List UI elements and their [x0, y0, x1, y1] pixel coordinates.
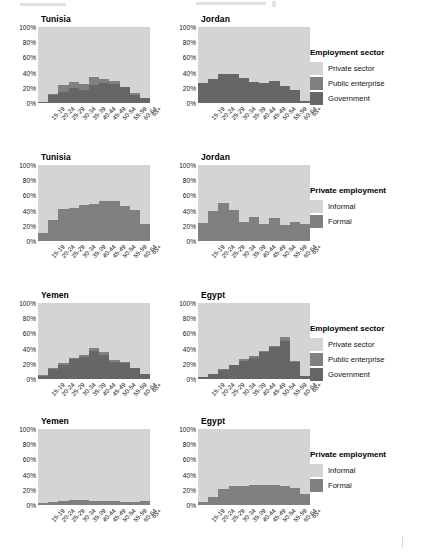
bar-65+[interactable]: [300, 27, 310, 103]
bar-15-19[interactable]: [198, 303, 208, 379]
bar-30-34[interactable]: [229, 27, 239, 103]
legend-item[interactable]: Formal: [310, 215, 430, 228]
bar-50-54[interactable]: [269, 429, 279, 505]
bar-25-29[interactable]: [58, 429, 68, 505]
bar-50-54[interactable]: [109, 429, 119, 505]
bar-50-54[interactable]: [269, 303, 279, 379]
bar-35-39[interactable]: [239, 429, 249, 505]
bar-20-24[interactable]: [48, 27, 58, 103]
bar-15-19[interactable]: [38, 429, 48, 505]
legend-item[interactable]: Private sector: [310, 338, 430, 351]
bar-35-39[interactable]: [79, 27, 89, 103]
bar-25-29[interactable]: [218, 165, 228, 241]
bar-25-29[interactable]: [58, 27, 68, 103]
bar-15-19[interactable]: [198, 429, 208, 505]
bar-20-24[interactable]: [48, 165, 58, 241]
bar-25-29[interactable]: [218, 303, 228, 379]
bar-45-49[interactable]: [99, 303, 109, 379]
bar-55-59[interactable]: [280, 165, 290, 241]
bar-30-34[interactable]: [229, 429, 239, 505]
bar-30-34[interactable]: [229, 303, 239, 379]
bar-40-44[interactable]: [89, 165, 99, 241]
bar-30-34[interactable]: [69, 303, 79, 379]
bar-65+[interactable]: [140, 429, 150, 505]
bar-60-64[interactable]: [130, 27, 140, 103]
bar-25-29[interactable]: [218, 27, 228, 103]
bar-45-49[interactable]: [259, 27, 269, 103]
bar-50-54[interactable]: [109, 165, 119, 241]
bar-20-24[interactable]: [208, 165, 218, 241]
bar-55-59[interactable]: [280, 27, 290, 103]
bar-35-39[interactable]: [239, 165, 249, 241]
bar-35-39[interactable]: [239, 27, 249, 103]
bar-20-24[interactable]: [48, 303, 58, 379]
bar-55-59[interactable]: [120, 429, 130, 505]
bar-40-44[interactable]: [249, 429, 259, 505]
bar-55-59[interactable]: [120, 303, 130, 379]
legend-item[interactable]: Formal: [310, 479, 430, 492]
bar-45-49[interactable]: [259, 303, 269, 379]
bar-20-24[interactable]: [48, 429, 58, 505]
bar-40-44[interactable]: [89, 27, 99, 103]
bar-40-44[interactable]: [89, 429, 99, 505]
bar-65+[interactable]: [300, 429, 310, 505]
bar-30-34[interactable]: [69, 27, 79, 103]
bar-60-64[interactable]: [290, 27, 300, 103]
bar-15-19[interactable]: [198, 27, 208, 103]
bar-45-49[interactable]: [99, 27, 109, 103]
bar-30-34[interactable]: [69, 429, 79, 505]
bar-15-19[interactable]: [198, 165, 208, 241]
bar-50-54[interactable]: [269, 27, 279, 103]
bar-65+[interactable]: [140, 27, 150, 103]
bar-25-29[interactable]: [58, 165, 68, 241]
bar-65+[interactable]: [140, 303, 150, 379]
bar-25-29[interactable]: [58, 303, 68, 379]
bar-45-49[interactable]: [259, 429, 269, 505]
legend-item[interactable]: Public enterprise: [310, 77, 430, 90]
bar-55-59[interactable]: [280, 429, 290, 505]
bar-60-64[interactable]: [290, 165, 300, 241]
bar-60-64[interactable]: [130, 429, 140, 505]
bar-40-44[interactable]: [249, 165, 259, 241]
bar-50-54[interactable]: [109, 303, 119, 379]
bar-15-19[interactable]: [38, 303, 48, 379]
bar-65+[interactable]: [300, 165, 310, 241]
legend-label: Private sector: [328, 64, 374, 73]
bar-15-19[interactable]: [38, 165, 48, 241]
bar-25-29[interactable]: [218, 429, 228, 505]
bar-50-54[interactable]: [109, 27, 119, 103]
bar-60-64[interactable]: [130, 303, 140, 379]
bar-30-34[interactable]: [69, 165, 79, 241]
bar-40-44[interactable]: [89, 303, 99, 379]
bar-45-49[interactable]: [259, 165, 269, 241]
bar-20-24[interactable]: [208, 303, 218, 379]
bar-55-59[interactable]: [120, 27, 130, 103]
bar-60-64[interactable]: [290, 303, 300, 379]
bar-35-39[interactable]: [79, 429, 89, 505]
bar-35-39[interactable]: [79, 165, 89, 241]
legend-item[interactable]: Government: [310, 92, 430, 105]
bar-55-59[interactable]: [120, 165, 130, 241]
bar-65+[interactable]: [300, 303, 310, 379]
bar-15-19[interactable]: [38, 27, 48, 103]
bar-20-24[interactable]: [208, 429, 218, 505]
bar-40-44[interactable]: [249, 27, 259, 103]
bar-45-49[interactable]: [99, 429, 109, 505]
bar-40-44[interactable]: [249, 303, 259, 379]
bar-30-34[interactable]: [229, 165, 239, 241]
legend-item[interactable]: Private sector: [310, 62, 430, 75]
bar-60-64[interactable]: [290, 429, 300, 505]
bar-60-64[interactable]: [130, 165, 140, 241]
bar-65+[interactable]: [140, 165, 150, 241]
bar-35-39[interactable]: [239, 303, 249, 379]
bar-20-24[interactable]: [208, 27, 218, 103]
bar-50-54[interactable]: [269, 165, 279, 241]
bar-55-59[interactable]: [280, 303, 290, 379]
legend-item[interactable]: Public enterprise: [310, 353, 430, 366]
legend-item[interactable]: Informal: [310, 200, 430, 213]
bar-45-49[interactable]: [99, 165, 109, 241]
legend-swatch-icon: [310, 338, 323, 351]
legend-item[interactable]: Informal: [310, 464, 430, 477]
legend-item[interactable]: Government: [310, 368, 430, 381]
bar-35-39[interactable]: [79, 303, 89, 379]
